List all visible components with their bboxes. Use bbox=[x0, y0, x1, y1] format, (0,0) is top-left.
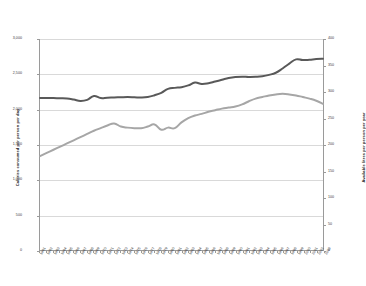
y-axis-right-tick-label: 400 bbox=[328, 37, 364, 41]
y-axis-right-tick-label: 200 bbox=[328, 143, 364, 147]
y-axis-right-title: Available litres per person per year bbox=[361, 88, 366, 208]
y-axis-right-tick-mark bbox=[324, 92, 326, 93]
y-axis-left-tick-mark bbox=[37, 251, 39, 252]
series-layer bbox=[40, 39, 323, 250]
y-axis-left-tick-label: 2,000 bbox=[0, 108, 22, 112]
y-axis-left-tick-label: 1,000 bbox=[0, 178, 22, 182]
y-axis-right-tick-mark bbox=[324, 172, 326, 173]
y-axis-left-tick-label: 3,000 bbox=[0, 37, 22, 41]
y-axis-right-tick-label: 0 bbox=[328, 249, 364, 253]
y-axis-right-tick-mark bbox=[324, 198, 326, 199]
y-axis-right-tick-label: 300 bbox=[328, 90, 364, 94]
y-axis-right-tick-label: 100 bbox=[328, 196, 364, 200]
y-axis-left-tick-mark bbox=[37, 74, 39, 75]
y-axis-right-tick-label: 50 bbox=[328, 223, 364, 227]
plot-area bbox=[39, 39, 324, 251]
y-axis-right-tick-label: 150 bbox=[328, 170, 364, 174]
y-axis-left-tick-label: 2,500 bbox=[0, 72, 22, 76]
y-axis-right-tick-mark bbox=[324, 225, 326, 226]
y-axis-left-tick-mark bbox=[37, 39, 39, 40]
y-axis-right-tick-label: 350 bbox=[328, 64, 364, 68]
y-axis-right-tick-mark bbox=[324, 66, 326, 67]
y-axis-right-tick-mark bbox=[324, 119, 326, 120]
chart-container: Calories consumed per person per day Ava… bbox=[0, 0, 366, 286]
y-axis-left-tick-label: 0 bbox=[0, 249, 22, 253]
y-axis-right-tick-label: 250 bbox=[328, 117, 364, 121]
y-axis-left-tick-mark bbox=[37, 180, 39, 181]
series-line bbox=[40, 94, 323, 156]
y-axis-left-tick-label: 1,500 bbox=[0, 143, 22, 147]
y-axis-left-tick-mark bbox=[37, 216, 39, 217]
y-axis-left-tick-mark bbox=[37, 110, 39, 111]
y-axis-left-tick-label: 500 bbox=[0, 214, 22, 218]
y-axis-right-tick-mark bbox=[324, 145, 326, 146]
y-axis-left-title: Calories consumed per person per day bbox=[15, 88, 20, 208]
y-axis-left-tick-mark bbox=[37, 145, 39, 146]
y-axis-right-tick-mark bbox=[324, 251, 326, 252]
x-axis-labels: 1961196219631964196519661967196819691970… bbox=[39, 254, 324, 284]
y-axis-right-tick-mark bbox=[324, 39, 326, 40]
